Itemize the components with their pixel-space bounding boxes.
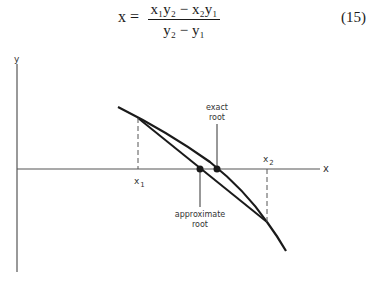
x2-label: x2 bbox=[263, 154, 274, 167]
secant-method-figure: y x x1 x2 exact root approximate root bbox=[0, 0, 378, 285]
function-curve bbox=[118, 107, 286, 251]
y-axis-label: y bbox=[14, 54, 20, 64]
x-axis-label: x bbox=[323, 163, 329, 174]
exact-root-label-line2: root bbox=[209, 113, 225, 122]
approx-root-label-line2: root bbox=[192, 220, 208, 229]
approx-root-dot bbox=[197, 166, 204, 173]
approx-root-label-line1: approximate bbox=[175, 210, 226, 219]
x1-label: x1 bbox=[134, 176, 145, 189]
exact-root-dot bbox=[214, 166, 221, 173]
exact-root-label-line1: exact bbox=[206, 103, 228, 112]
